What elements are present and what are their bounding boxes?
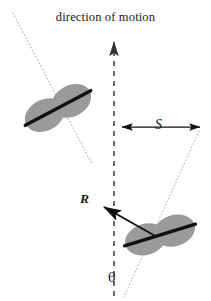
upper-left-particle <box>18 77 98 139</box>
separation-label: S <box>155 118 162 132</box>
angle-theta-label: θ <box>108 272 116 285</box>
diagram-title: direction of motion <box>0 11 211 24</box>
lower-trajectory-line <box>124 131 199 297</box>
diagram-canvas <box>0 0 211 301</box>
physics-diagram: direction of motion S R θ <box>0 0 211 301</box>
resultant-force-label: R <box>80 192 89 206</box>
